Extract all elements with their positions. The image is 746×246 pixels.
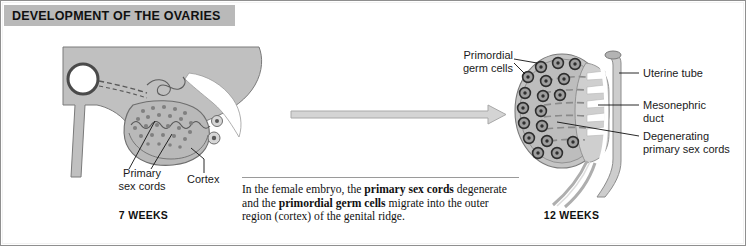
progression-arrow <box>291 105 506 124</box>
label-primary-sex-cords: Primary sex cords <box>105 167 179 192</box>
caption-bold-primary-sex-cords: primary sex cords <box>364 183 454 196</box>
caption-part-1: In the female embryo, the <box>242 183 364 196</box>
label-mesonephric-duct: Mesonephric duct <box>643 99 706 124</box>
figure-panel: DEVELOPMENT OF THE OVARIES <box>0 0 746 246</box>
genital-ridge <box>124 101 209 166</box>
leader-primordial-germ-cells-a <box>514 59 537 63</box>
ovary-cross-section-12-weeks <box>514 51 639 207</box>
uterine-tube-opening <box>605 51 621 59</box>
caption-bold-primordial-germ-cells: primordial germ cells <box>279 197 386 210</box>
embryo-cross-section-7-weeks <box>63 47 262 177</box>
mesonephric-duct-openings <box>208 116 223 145</box>
label-primordial-germ-cells: Primordial germ cells <box>457 49 513 74</box>
label-cortex: Cortex <box>187 173 219 186</box>
leader-primordial-germ-cells-b <box>514 63 525 74</box>
label-uterine-tube: Uterine tube <box>643 67 703 80</box>
stage-label-7-weeks: 7 WEEKS <box>91 209 196 221</box>
aorta-circle <box>68 64 98 94</box>
label-degenerating-primary-sex-cords: Degenerating primary sex cords <box>643 130 730 155</box>
stage-label-12-weeks: 12 WEEKS <box>519 209 624 221</box>
figure-caption: In the female embryo, the primary sex co… <box>242 177 519 224</box>
